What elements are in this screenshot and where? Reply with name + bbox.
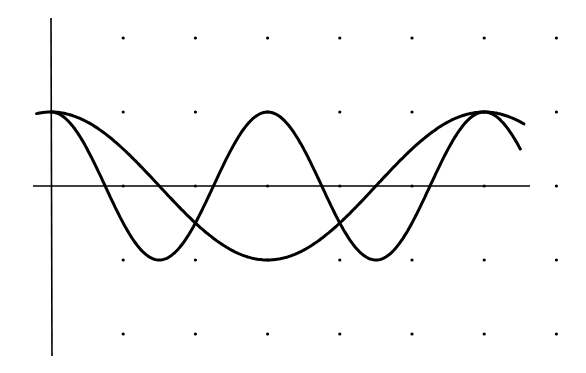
grid-dot bbox=[194, 258, 197, 261]
grid-dot bbox=[555, 110, 558, 113]
grid-dot bbox=[483, 36, 486, 39]
grid-dot bbox=[483, 332, 486, 335]
grid-dot bbox=[410, 110, 413, 113]
grid-dot bbox=[410, 36, 413, 39]
grid-dot bbox=[122, 332, 125, 335]
grid-dot bbox=[266, 36, 269, 39]
grid-dot bbox=[266, 332, 269, 335]
grid-dot bbox=[194, 332, 197, 335]
grid-dot bbox=[338, 332, 341, 335]
grid-dot bbox=[555, 258, 558, 261]
grid-dot bbox=[338, 110, 341, 113]
grid-dot bbox=[194, 36, 197, 39]
grid-dot bbox=[122, 36, 125, 39]
y-axis bbox=[51, 18, 52, 356]
grid-dot bbox=[410, 332, 413, 335]
grid-dot bbox=[122, 258, 125, 261]
grid-dot bbox=[410, 258, 413, 261]
grid-dot bbox=[555, 36, 558, 39]
grid-dot bbox=[122, 110, 125, 113]
grid-dot bbox=[338, 258, 341, 261]
grid-dot bbox=[555, 332, 558, 335]
grid-dot bbox=[483, 258, 486, 261]
grid-dot bbox=[555, 184, 558, 187]
plot-area bbox=[0, 0, 586, 373]
grid-dot bbox=[194, 110, 197, 113]
grid-dot bbox=[338, 36, 341, 39]
